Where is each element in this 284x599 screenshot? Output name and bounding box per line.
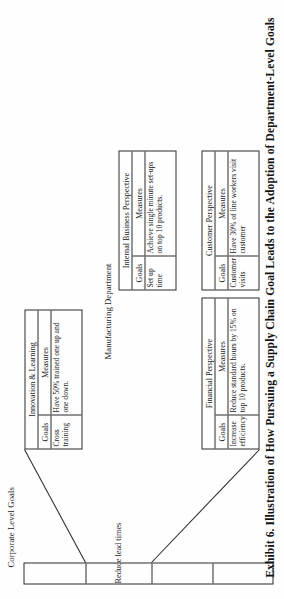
measures-column-header: Measures [215,298,228,414]
measures-column-header: Measures [215,151,228,255]
perspective-title: Innovation & Learning [25,310,38,448]
measure-cell: Have 50% trained one up and one down. [51,310,81,414]
measures-column: Measures Have 30% of line workers visit … [215,151,258,255]
connector-line-upper [24,449,85,562]
perspective-table-internal-business: Internal Business Perspective Goals Set … [118,150,176,290]
perspective-table-innovation-learning: Innovation & Learning Goals Cross traini… [24,309,82,449]
measures-column: Measures Reduce standard hours by 15% on… [215,298,258,414]
measures-column-header: Measures [38,310,51,414]
goal-cell: Set up time [145,256,175,289]
perspective-table-customer: Customer Perspective Goals Customer visi… [201,150,259,290]
goals-column: Goals Cross training [38,414,81,448]
goal-cell: Cross training [51,415,81,448]
goals-column-header: Goals [215,415,228,448]
figure-caption: Exhibit 6. Illustration of How Pursuing … [263,0,276,599]
measure-cell: Have 30% of line workers visit customer [228,151,258,255]
measures-column-header: Measures [132,151,145,255]
perspective-title: Internal Business Perspective [119,151,132,289]
goals-column-header: Goals [38,415,51,448]
goal-cell: Customer visits [228,256,258,289]
measures-column: Measures Have 50% trained one up and one… [38,310,81,414]
goals-column: Goals Increase efficiency [215,414,258,448]
goals-column-header: Goals [215,256,228,289]
measure-cell: Achieve single minute set-ups on top 10 … [145,151,175,255]
perspective-title: Financial Perspective [202,298,215,448]
goals-column: Goals Set up time [132,255,175,289]
perspective-title: Customer Perspective [202,151,215,289]
measure-cell: Reduce standard hours by 15% on top 10 p… [228,298,258,414]
goals-column-header: Goals [132,256,145,289]
goal-cell: Increase efficiency [228,415,258,448]
perspective-table-financial: Financial Perspective Goals Increase eff… [201,297,259,449]
goals-column: Goals Customer visits [215,255,258,289]
connector-line-lower [151,449,259,562]
measures-column: Measures Achieve single minute set-ups o… [132,151,175,255]
